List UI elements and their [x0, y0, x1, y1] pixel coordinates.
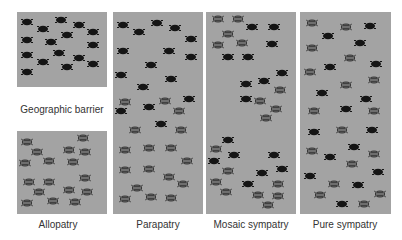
gray-insect-icon	[181, 157, 193, 165]
black-insect-icon	[348, 143, 360, 151]
black-insect-icon	[21, 51, 33, 59]
black-insect-icon	[137, 83, 149, 91]
black-insect-icon	[354, 39, 366, 47]
gray-insect-icon	[220, 188, 232, 196]
caption-parapatry: Parapatry	[112, 219, 204, 230]
gray-insect-icon	[272, 180, 284, 188]
black-insect-icon	[115, 107, 127, 115]
black-insect-icon	[169, 24, 181, 32]
black-insect-icon	[242, 53, 254, 61]
gray-insect-icon	[79, 174, 91, 182]
gray-insect-icon	[43, 178, 55, 186]
black-insect-icon	[115, 71, 127, 79]
gray-insect-icon	[368, 76, 380, 84]
gray-insect-icon	[252, 191, 264, 199]
black-insect-icon	[61, 31, 73, 39]
gray-insect-icon	[306, 44, 318, 52]
black-insect-icon	[117, 21, 129, 29]
gray-insect-icon	[47, 197, 59, 205]
black-insect-icon	[364, 22, 376, 30]
gray-insect-icon	[79, 148, 91, 156]
gray-insect-icon	[308, 107, 320, 115]
black-insect-icon	[258, 77, 270, 85]
gray-insect-icon	[260, 114, 272, 122]
black-insect-icon	[151, 19, 163, 27]
gray-insect-icon	[306, 19, 318, 27]
panel-pure-sympatry	[300, 12, 391, 214]
gray-insect-icon	[272, 192, 284, 200]
gray-insect-icon	[306, 147, 318, 155]
black-insect-icon	[21, 18, 33, 26]
black-insect-icon	[73, 21, 85, 29]
gray-insect-icon	[19, 159, 31, 167]
gray-insect-icon	[270, 105, 282, 113]
gray-insect-icon	[358, 200, 370, 208]
gray-insect-icon	[67, 158, 79, 166]
black-insect-icon	[304, 172, 316, 180]
gray-insect-icon	[165, 194, 177, 202]
gray-insect-icon	[210, 145, 222, 153]
black-insect-icon	[372, 168, 384, 176]
panel-allopatry: Geographic barrier	[17, 12, 107, 214]
gray-insect-icon	[336, 126, 348, 134]
gray-insect-icon	[254, 97, 266, 105]
black-insect-icon	[165, 75, 177, 83]
gray-insect-icon	[69, 198, 81, 206]
gray-insect-icon	[177, 180, 189, 188]
gray-insect-icon	[23, 178, 35, 186]
black-insect-icon	[222, 53, 234, 61]
caption-pure-sympatry: Pure sympatry	[299, 219, 391, 230]
black-insect-icon	[155, 120, 167, 128]
black-insect-icon	[37, 58, 49, 66]
black-insect-icon	[240, 95, 252, 103]
gray-insect-icon	[314, 191, 326, 199]
gray-insect-icon	[210, 178, 222, 186]
black-insect-icon	[222, 136, 234, 144]
black-insect-icon	[246, 23, 258, 31]
gray-insect-icon	[212, 41, 224, 49]
black-insect-icon	[87, 41, 99, 49]
black-insect-icon	[366, 126, 378, 134]
black-insect-icon	[316, 89, 328, 97]
gray-insect-icon	[21, 138, 33, 146]
gray-insect-icon	[129, 126, 141, 134]
panel-mosaic-sympatry	[206, 12, 296, 214]
gray-insect-icon	[159, 97, 171, 105]
black-insect-icon	[53, 49, 65, 57]
black-insect-icon	[163, 47, 175, 55]
gray-insect-icon	[163, 173, 175, 181]
gray-insect-icon	[340, 81, 352, 89]
black-insect-icon	[256, 169, 268, 177]
black-insect-icon	[185, 35, 197, 43]
gray-insect-icon	[77, 134, 89, 142]
gray-insect-icon	[31, 148, 43, 156]
black-insect-icon	[370, 60, 382, 68]
caption-mosaic-sympatry: Mosaic sympatry	[205, 219, 297, 230]
black-insect-icon	[266, 40, 278, 48]
gray-insect-icon	[131, 184, 143, 192]
gray-insect-icon	[344, 54, 356, 62]
gray-insect-icon	[222, 167, 234, 175]
gray-insect-icon	[143, 165, 155, 173]
gray-insect-icon	[274, 86, 286, 94]
black-insect-icon	[340, 105, 352, 113]
gray-insect-icon	[63, 146, 75, 154]
black-insect-icon	[21, 36, 33, 44]
black-insect-icon	[276, 69, 288, 77]
black-insect-icon	[183, 95, 195, 103]
black-insect-icon	[185, 53, 197, 61]
gray-insect-icon	[368, 107, 380, 115]
black-insect-icon	[117, 47, 129, 55]
black-insect-icon	[276, 165, 288, 173]
black-insect-icon	[143, 103, 155, 111]
speciation-diagram: Geographic barrier Allopatry Parapatry M…	[0, 0, 402, 240]
black-insect-icon	[45, 38, 57, 46]
gray-insect-icon	[236, 39, 248, 47]
panel-parapatry	[113, 12, 203, 214]
gray-insect-icon	[33, 188, 45, 196]
black-insect-icon	[352, 181, 364, 189]
black-insect-icon	[268, 151, 280, 159]
gray-insect-icon	[262, 201, 274, 209]
black-insect-icon	[242, 180, 254, 188]
black-insect-icon	[268, 23, 280, 31]
